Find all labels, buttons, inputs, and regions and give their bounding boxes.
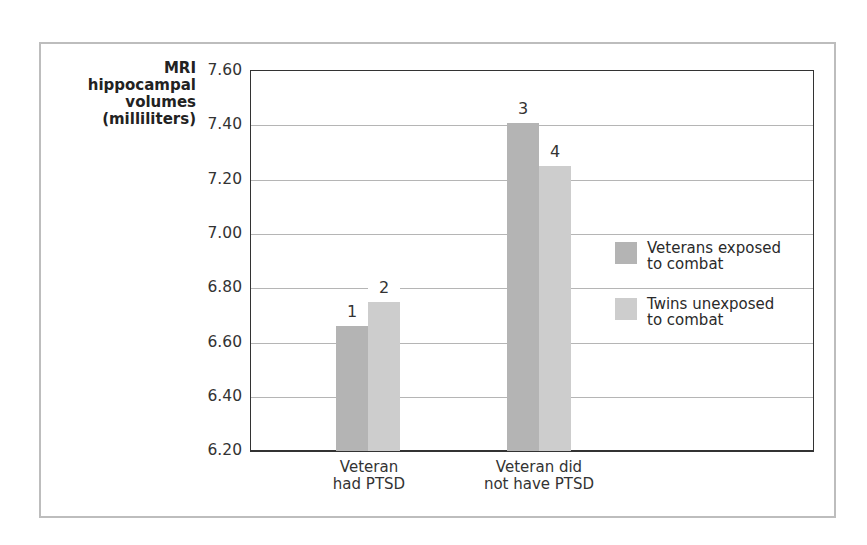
bar-veterans-no-ptsd xyxy=(507,123,539,451)
legend-line: to combat xyxy=(647,312,774,328)
x-category-line: not have PTSD xyxy=(469,476,609,493)
x-category-line: Veteran did xyxy=(469,459,609,476)
y-tick: 6.60 xyxy=(196,333,242,351)
bar-number-label: 2 xyxy=(368,278,400,297)
legend-swatch xyxy=(615,298,637,320)
y-tick: 7.60 xyxy=(196,61,242,79)
bar-twins-no-ptsd xyxy=(539,166,571,451)
y-axis-label-line: hippocampal xyxy=(60,77,196,94)
y-tick: 6.40 xyxy=(196,387,242,405)
x-category-label: Veteran had PTSD xyxy=(308,459,430,493)
bar-number-label: 3 xyxy=(507,99,539,118)
y-tick: 7.20 xyxy=(196,170,242,188)
y-axis-label-line: (milliliters) xyxy=(60,111,196,128)
legend-label: Veterans exposed to combat xyxy=(647,240,781,272)
bar-twins-had-ptsd xyxy=(368,302,400,451)
y-tick: 7.40 xyxy=(196,115,242,133)
x-category-line: had PTSD xyxy=(308,476,430,493)
bar-number-label: 1 xyxy=(336,302,368,321)
legend-swatch xyxy=(615,242,637,264)
y-tick: 6.80 xyxy=(196,278,242,296)
legend-line: to combat xyxy=(647,256,781,272)
x-category-label: Veteran did not have PTSD xyxy=(469,459,609,493)
legend-line: Veterans exposed xyxy=(647,240,781,256)
legend-label: Twins unexposed to combat xyxy=(647,296,774,328)
bar-veterans-had-ptsd xyxy=(336,326,368,451)
y-axis-label-line: MRI xyxy=(60,60,196,77)
y-axis-label: MRI hippocampal volumes (milliliters) xyxy=(60,60,196,128)
y-tick: 7.00 xyxy=(196,224,242,242)
legend-line: Twins unexposed xyxy=(647,296,774,312)
x-category-line: Veteran xyxy=(308,459,430,476)
y-axis-label-line: volumes xyxy=(60,94,196,111)
y-tick: 6.20 xyxy=(196,441,242,459)
bar-number-label: 4 xyxy=(539,142,571,161)
